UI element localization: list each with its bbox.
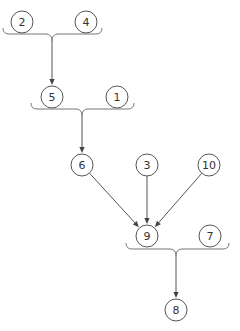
edges xyxy=(89,173,201,227)
arrowhead-icon xyxy=(49,79,54,85)
arrowhead-icon xyxy=(79,147,84,153)
node-1: 1 xyxy=(106,86,128,108)
edge-10-to-9 xyxy=(158,173,202,224)
node-3: 3 xyxy=(136,154,158,176)
node-label: 6 xyxy=(79,159,86,172)
node-7: 7 xyxy=(199,225,221,247)
node-9: 9 xyxy=(136,225,158,247)
node-10: 10 xyxy=(198,154,220,176)
node-4: 4 xyxy=(75,11,97,33)
node-6: 6 xyxy=(71,154,93,176)
arrowhead-icon xyxy=(173,292,178,298)
node-label: 4 xyxy=(83,16,90,29)
node-label: 3 xyxy=(144,159,151,172)
edge-6-to-9 xyxy=(89,173,136,224)
node-label: 8 xyxy=(173,304,180,317)
node-label: 7 xyxy=(207,230,214,243)
nodes: 24516310978 xyxy=(11,11,221,321)
node-label: 9 xyxy=(144,230,151,243)
node-label: 2 xyxy=(19,16,26,29)
node-5: 5 xyxy=(41,86,63,108)
node-label: 5 xyxy=(49,91,56,104)
merge-tree-diagram: 24516310978 xyxy=(0,0,240,331)
node-2: 2 xyxy=(11,11,33,33)
node-label: 1 xyxy=(114,91,121,104)
group-braces xyxy=(3,28,229,298)
node-label: 10 xyxy=(202,159,216,172)
arrowhead-icon xyxy=(144,218,149,224)
node-8: 8 xyxy=(165,299,187,321)
